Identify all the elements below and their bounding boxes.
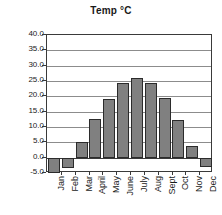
y-axis-tick-labels: 40.035.030.025.020.015.010.05.00.0-5.0 [0,34,44,172]
x-tick-mark [75,171,76,175]
x-tick-label: Mar [85,176,94,192]
x-tick-label: Aug [154,176,163,192]
x-tick-label: May [112,176,121,193]
y-tick-label: 40.0 [2,30,44,38]
bar-chart: Temp °C 40.035.030.025.020.015.010.05.00… [0,0,222,215]
chart-title: Temp °C [0,5,222,16]
x-tick-label: April [98,176,107,194]
y-tick-mark [42,172,46,173]
y-tick-label: 30.0 [2,61,44,69]
bar [186,146,198,157]
x-tick-mark [61,171,62,175]
y-tick-label: 15.0 [2,107,44,115]
bar [62,158,74,169]
x-tick-mark [102,171,103,175]
y-tick-label: -5.0 [2,168,44,176]
x-tick-label: Dec [209,176,218,192]
y-tick-label: 35.0 [2,45,44,53]
x-tick-mark [130,171,131,175]
x-tick-mark [185,171,186,175]
bar [76,142,88,157]
x-tick-mark [144,171,145,175]
y-tick-label: 20.0 [2,91,44,99]
y-tick-label: 5.0 [2,137,44,145]
y-tick-label: 25.0 [2,76,44,84]
x-tick-label: June [126,176,135,196]
y-tick-label: 10.0 [2,122,44,130]
x-tick-label: Nov [195,176,204,192]
x-tick-mark [199,171,200,175]
bar [89,119,101,158]
bar [172,120,184,157]
x-tick-label: Oct [181,176,190,190]
plot-area [46,34,212,172]
bar [145,83,157,158]
bar [159,98,171,157]
bar [200,158,212,168]
x-tick-mark [158,171,159,175]
x-tick-mark [172,171,173,175]
bar [117,83,129,158]
x-tick-mark [89,171,90,175]
x-axis-tick-labels: JanFebMarAprilMayJuneJulyAugSeptOctNovDe… [46,176,212,215]
bar [131,78,143,158]
x-tick-label: July [140,176,149,192]
x-tick-label: Jan [57,176,66,191]
x-tick-mark [116,171,117,175]
y-tick-label: 0.0 [2,153,44,161]
bar [48,158,60,173]
x-tick-label: Sept [168,176,177,195]
x-tick-label: Feb [71,176,80,192]
bar [103,99,115,157]
bars-group [47,35,211,171]
